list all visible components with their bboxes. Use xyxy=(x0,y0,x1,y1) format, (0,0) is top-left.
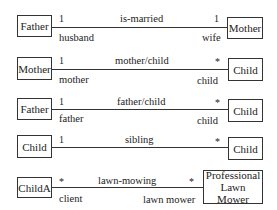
association-line xyxy=(52,147,228,148)
multiplicity-left: 1 xyxy=(59,135,64,145)
association-line xyxy=(52,109,228,110)
role-right: wife xyxy=(202,32,221,43)
multiplicity-left: * xyxy=(59,177,64,187)
class-box-mother[interactable]: Mother xyxy=(227,17,263,39)
association-line xyxy=(52,187,203,188)
multiplicity-left: 1 xyxy=(59,14,64,24)
class-box-child[interactable]: Child xyxy=(17,135,52,158)
association-label: mother/child xyxy=(115,55,169,66)
multiplicity-right: * xyxy=(215,98,220,108)
role-right: child xyxy=(197,115,218,126)
class-box-father[interactable]: Father xyxy=(17,15,52,37)
class-box-father[interactable]: Father xyxy=(17,98,52,120)
role-right: lawn mower xyxy=(143,194,195,205)
association-line xyxy=(52,69,228,70)
role-left: father xyxy=(59,113,83,124)
role-right: child xyxy=(197,75,218,86)
multiplicity-right: * xyxy=(215,57,220,67)
role-left: client xyxy=(59,193,82,204)
association-label: sibling xyxy=(125,134,154,145)
class-box-child[interactable]: Child xyxy=(228,137,263,160)
class-box-child[interactable]: Child xyxy=(228,58,263,81)
role-left: mother xyxy=(59,74,89,85)
multiplicity-right: 1 xyxy=(214,14,219,24)
association-line xyxy=(52,27,228,28)
class-box-mother[interactable]: Mother xyxy=(17,57,52,80)
class-box-professional-lawn-mower[interactable]: Professional Lawn Mower xyxy=(203,170,263,204)
class-box-child[interactable]: Child xyxy=(228,99,263,122)
multiplicity-right: * xyxy=(215,137,220,147)
role-left: husband xyxy=(59,32,94,43)
multiplicity-left: 1 xyxy=(59,56,64,66)
association-label: is-married xyxy=(120,13,163,24)
class-box-childa[interactable]: ChildA xyxy=(17,177,52,198)
association-label: father/child xyxy=(117,96,165,107)
multiplicity-left: 1 xyxy=(59,97,64,107)
association-label: lawn-mowing xyxy=(98,175,156,186)
multiplicity-right: * xyxy=(189,177,194,187)
